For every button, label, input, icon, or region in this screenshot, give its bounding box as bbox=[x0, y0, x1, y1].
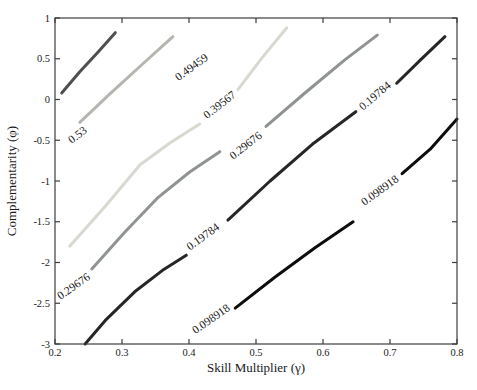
y-tick-label: -0.5 bbox=[33, 135, 50, 146]
x-tick-label: 0.4 bbox=[182, 347, 196, 358]
contour-label-0.098918-1: 0.098918 bbox=[190, 301, 232, 336]
y-tick-label: -1 bbox=[41, 176, 50, 187]
contour-line-0.29676-seg1 bbox=[92, 152, 220, 269]
y-tick-label: -3 bbox=[41, 339, 50, 350]
contour-line-0.49459-seg1 bbox=[80, 37, 173, 123]
y-tick-label: -2 bbox=[41, 257, 50, 268]
contour-label-0.29676-2: 0.29676 bbox=[227, 129, 264, 162]
contour-label-0.19784-1: 0.19784 bbox=[184, 220, 221, 252]
contour-label-0.53-1: 0.53 bbox=[66, 124, 89, 146]
contour-label-0.39567-1: 0.39567 bbox=[201, 88, 238, 121]
contour-line-0.53-seg1 bbox=[62, 33, 116, 93]
contour-label-0.29676-1: 0.29676 bbox=[55, 270, 93, 301]
contour-line-0.098918-seg1 bbox=[235, 222, 353, 308]
contour-line-0.098918-seg2 bbox=[402, 119, 457, 174]
contour-label-0.098918-2: 0.098918 bbox=[359, 172, 401, 207]
x-tick-label: 0.2 bbox=[48, 347, 61, 358]
y-tick-label: 0.5 bbox=[37, 53, 50, 64]
contour-line-0.19784-seg3 bbox=[397, 37, 445, 83]
contour-line-0.19784-seg1 bbox=[85, 255, 186, 344]
contour-plot-svg: 0.530.494590.395670.296760.296760.197840… bbox=[0, 0, 477, 390]
y-tick-label: -2.5 bbox=[33, 298, 50, 309]
y-axis-label: Complementarity (φ) bbox=[4, 126, 19, 236]
contour-line-0.29676-seg2 bbox=[266, 35, 377, 126]
y-tick-label: 0 bbox=[45, 94, 50, 105]
x-axis-label: Skill Multiplier (γ) bbox=[207, 360, 305, 375]
x-tick-label: 0.8 bbox=[450, 347, 463, 358]
x-tick-label: 0.7 bbox=[383, 347, 396, 358]
contour-line-0.39567-seg2 bbox=[238, 28, 287, 90]
x-tick-label: 0.5 bbox=[249, 347, 262, 358]
x-tick-label: 0.6 bbox=[316, 347, 329, 358]
x-tick-label: 0.3 bbox=[115, 347, 128, 358]
contour-figure: 0.530.494590.395670.296760.296760.197840… bbox=[0, 0, 477, 390]
contour-line-0.19784-seg2 bbox=[228, 112, 356, 220]
contour-label-0.19784-2: 0.19784 bbox=[357, 79, 394, 112]
contour-line-0.39567-seg1 bbox=[70, 124, 200, 246]
y-tick-label: 1 bbox=[45, 13, 50, 24]
y-tick-label: -1.5 bbox=[33, 216, 50, 227]
contour-label-0.49459-1: 0.49459 bbox=[173, 51, 210, 83]
